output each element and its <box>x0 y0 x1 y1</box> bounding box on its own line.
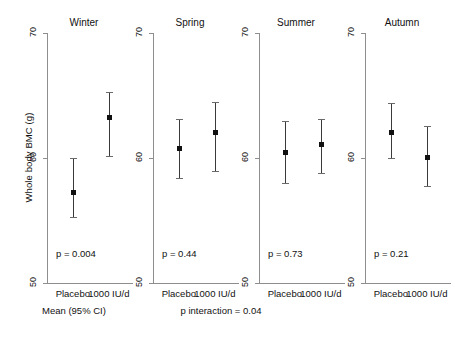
mean-marker <box>389 130 394 135</box>
errorbar-cap-lower <box>388 158 395 159</box>
y-tick-label-60-autumn: 60 <box>346 150 356 164</box>
p-interaction-note: p interaction = 0.04 <box>0 305 442 316</box>
x-axis-line-autumn <box>365 283 451 284</box>
y-axis-line-autumn <box>365 33 366 283</box>
panel-title-autumn: Autumn <box>359 17 445 28</box>
mean-marker <box>425 155 430 160</box>
y-tick-70-autumn <box>361 33 365 34</box>
errorbar-cap-upper <box>388 103 395 104</box>
y-tick-60-autumn <box>361 158 365 159</box>
errorbar-cap-lower <box>424 186 431 187</box>
errorbar-cap-upper <box>424 126 431 127</box>
y-tick-50-autumn <box>361 283 365 284</box>
pvalue-label-autumn: p = 0.21 <box>374 248 409 259</box>
x-tick-label-autumn-1000iu: 1000 IU/d <box>399 288 455 299</box>
y-tick-label-70-autumn: 70 <box>346 25 356 39</box>
y-tick-label-50-autumn: 50 <box>346 275 356 289</box>
